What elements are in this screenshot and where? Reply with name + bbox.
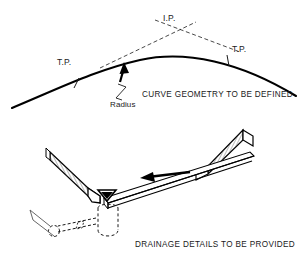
flow-arrow-head: [140, 172, 155, 182]
right-panel-end-cap: [243, 130, 253, 146]
left-panel-far-end: [46, 148, 50, 160]
channel-front-edge: [108, 156, 254, 203]
label-intersection-point: I.P.: [163, 14, 175, 23]
label-tangent-point-left: T.P.: [57, 58, 71, 67]
curve-alignment: [12, 57, 296, 108]
caption-drainage-details: DRAINAGE DETAILS TO BE PROVIDED: [135, 240, 295, 249]
label-radius: Radius: [110, 101, 136, 109]
radius-leader-zigzag: [116, 84, 126, 98]
radius-pointer: [116, 62, 129, 100]
label-tangent-point-right: T.P.: [232, 45, 246, 54]
left-deck-panel: [46, 148, 100, 203]
gutter-channel: [104, 152, 254, 209]
tangent-point-tick-left: [74, 78, 79, 88]
drainage-detail-group: [30, 130, 254, 237]
pipe-junction: [49, 226, 60, 237]
drawing-sheet: I.P. T.P. T.P. Radius CURVE GEOMETRY TO …: [0, 0, 308, 270]
tangent-lines: [100, 20, 240, 68]
pipe-branch-lower: [33, 220, 54, 236]
drawing-canvas: [0, 0, 308, 270]
pipe-branch-upper: [30, 210, 50, 226]
channel-bottom-edge: [108, 161, 252, 208]
basin-bottom: [98, 230, 118, 236]
tangent-line-right: [155, 20, 240, 52]
caption-curve-geometry: CURVE GEOMETRY TO BE DEFINED: [142, 90, 293, 99]
channel-top-face: [104, 152, 254, 203]
drain-pipe-run: [30, 210, 96, 237]
tangent-line-left: [100, 22, 196, 68]
